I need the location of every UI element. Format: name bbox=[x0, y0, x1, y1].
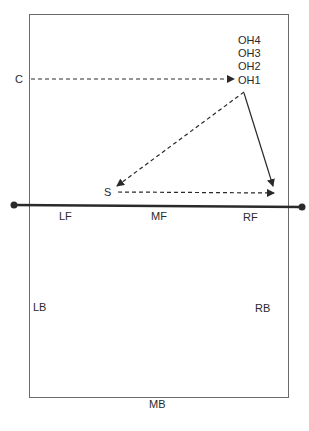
arrow-oh1-to-rf-solid bbox=[244, 93, 273, 186]
zone-mb: MB bbox=[149, 398, 166, 410]
zone-rf: RF bbox=[243, 211, 258, 223]
player-oh3: OH3 bbox=[238, 47, 261, 59]
player-s: S bbox=[104, 186, 111, 198]
zone-mf: MF bbox=[151, 210, 167, 222]
zone-lb: LB bbox=[33, 301, 46, 313]
arrow-s-to-rf bbox=[118, 192, 274, 193]
zone-rb: RB bbox=[255, 302, 270, 314]
net-post-right-icon bbox=[299, 204, 306, 211]
player-oh1: OH1 bbox=[238, 74, 261, 86]
player-oh2: OH2 bbox=[238, 60, 261, 72]
player-oh4: OH4 bbox=[238, 34, 261, 46]
player-c: C bbox=[15, 73, 23, 85]
arrow-oh1-to-s bbox=[117, 92, 244, 186]
zone-lf: LF bbox=[59, 210, 72, 222]
net-post-left-icon bbox=[11, 202, 18, 209]
